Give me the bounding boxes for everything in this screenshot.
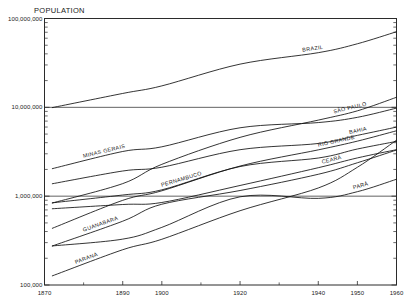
x-tick-label-1870: 1870	[38, 290, 52, 296]
x-tick-label-1920: 1920	[233, 290, 247, 296]
y-tick-label-10000000: 10,000,000	[11, 104, 43, 110]
curve-guanabara	[52, 150, 396, 246]
x-tick-label-1900: 1900	[155, 290, 169, 296]
x-tick-label-1890: 1890	[116, 290, 130, 296]
curve-paran-	[52, 140, 396, 276]
x-tick-label-1940: 1940	[311, 290, 325, 296]
curve-rio-grande	[52, 131, 396, 229]
series-label-brazil: BRAZIL	[302, 44, 324, 53]
series-label-minas-gerais: MINAS GERAIS	[82, 143, 125, 159]
curve-brazil	[52, 32, 396, 108]
x-axis-tick-labels: 1870189019001920194019501960	[38, 290, 404, 296]
y-tick-label-100000000: 100,000,000	[8, 16, 43, 22]
series-label-s-o-paulo: SÃO PAULO	[333, 101, 367, 115]
curve-cear-	[52, 150, 396, 209]
population-log-chart: POPULATION 100,000,00010,000,0001,000,00…	[0, 0, 417, 303]
series-label-cear-: CEARÁ	[321, 154, 342, 165]
y-tick-label-1000000: 1,000,000	[15, 193, 43, 199]
chart-title: POPULATION	[34, 6, 85, 15]
x-tick-label-1950: 1950	[351, 290, 365, 296]
y-axis-tick-labels: 100,000,00010,000,0001,000,000100,000	[8, 16, 43, 289]
y-tick-label-100000: 100,000	[20, 282, 43, 288]
axis-title-group: POPULATION	[34, 6, 85, 15]
series-label-guanabara: GUANABARA	[82, 215, 119, 233]
chart-container: POPULATION 100,000,00010,000,0001,000,00…	[0, 0, 417, 303]
series-labels: BRAZILSÃO PAULOMINAS GERAISBAHIARIO GRAN…	[74, 44, 369, 265]
x-tick-label-1960: 1960	[390, 290, 404, 296]
